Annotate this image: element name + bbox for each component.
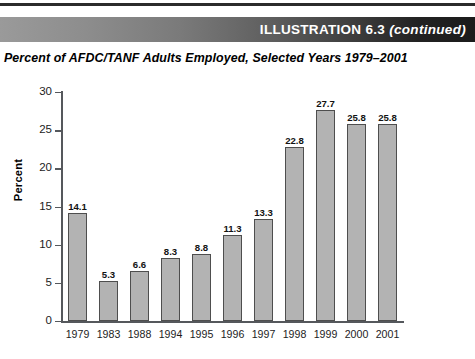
bar: 8.3: [161, 258, 180, 321]
y-axis-tick: [55, 130, 62, 131]
top-divider-rule: [0, 3, 475, 6]
bar: 27.7: [316, 110, 335, 321]
bar-value-label: 8.8: [195, 242, 208, 253]
y-axis-tick: [55, 245, 62, 246]
y-axis-tick: [55, 168, 62, 169]
y-axis-tick-label: 15: [22, 200, 52, 212]
bar: 8.8: [192, 254, 211, 321]
bar-value-label: 6.6: [133, 259, 146, 270]
bar: 13.3: [254, 219, 273, 321]
y-axis-tick: [55, 207, 62, 208]
bar-value-label: 8.3: [164, 246, 177, 257]
x-axis-tick-label: 2001: [376, 328, 400, 340]
y-axis-tick-label: 30: [22, 85, 52, 97]
x-axis-tick-label: 1979: [66, 328, 90, 340]
illustration-continued-label: (continued): [389, 22, 466, 37]
x-axis-tick-label: 2000: [345, 328, 369, 340]
bar-value-label: 25.8: [378, 112, 397, 123]
bar: 14.1: [68, 213, 87, 321]
bar-value-label: 25.8: [347, 112, 366, 123]
x-axis-tick-label: 1988: [128, 328, 152, 340]
bar-value-label: 11.3: [223, 223, 241, 234]
y-axis-tick-label: 25: [22, 123, 52, 135]
bar: 22.8: [285, 147, 304, 321]
x-axis-tick-label: 1996: [221, 328, 245, 340]
x-axis-tick-label: 1983: [97, 328, 121, 340]
x-axis-tick-label: 1997: [252, 328, 276, 340]
bar-value-label: 27.7: [316, 98, 335, 109]
bar-value-label: 13.3: [254, 207, 273, 218]
bar: 25.8: [378, 124, 397, 321]
bar-value-label: 14.1: [68, 201, 87, 212]
illustration-banner-text: ILLUSTRATION 6.3 (continued): [260, 22, 466, 37]
chart-subtitle: Percent of AFDC/TANF Adults Employed, Se…: [4, 51, 408, 65]
y-axis-tick: [55, 283, 62, 284]
y-axis-tick-label: 20: [22, 161, 52, 173]
bar-value-label: 5.3: [102, 269, 115, 280]
illustration-number: ILLUSTRATION 6.3: [260, 22, 385, 37]
x-axis-line: [61, 321, 404, 323]
illustration-banner: ILLUSTRATION 6.3 (continued): [0, 17, 475, 42]
x-axis-tick-label: 1998: [283, 328, 307, 340]
bar: 6.6: [130, 271, 149, 321]
bar: 25.8: [347, 124, 366, 321]
y-axis-tick-label: 5: [22, 276, 52, 288]
x-axis-tick-label: 1999: [314, 328, 338, 340]
bar-chart: Percent 051015202530 14.15.36.68.38.811.…: [0, 78, 475, 343]
bar-value-label: 22.8: [285, 135, 304, 146]
y-axis-tick: [55, 321, 62, 322]
bar: 11.3: [223, 235, 242, 321]
y-axis-tick-label: 10: [22, 238, 52, 250]
x-axis-tick-label: 1994: [159, 328, 183, 340]
y-axis-tick: [55, 92, 62, 93]
x-axis-tick-label: 1995: [190, 328, 214, 340]
bar: 5.3: [99, 281, 118, 321]
plot-area: 14.15.36.68.38.811.313.322.827.725.825.8: [62, 92, 403, 321]
y-axis-tick-label: 0: [22, 314, 52, 326]
